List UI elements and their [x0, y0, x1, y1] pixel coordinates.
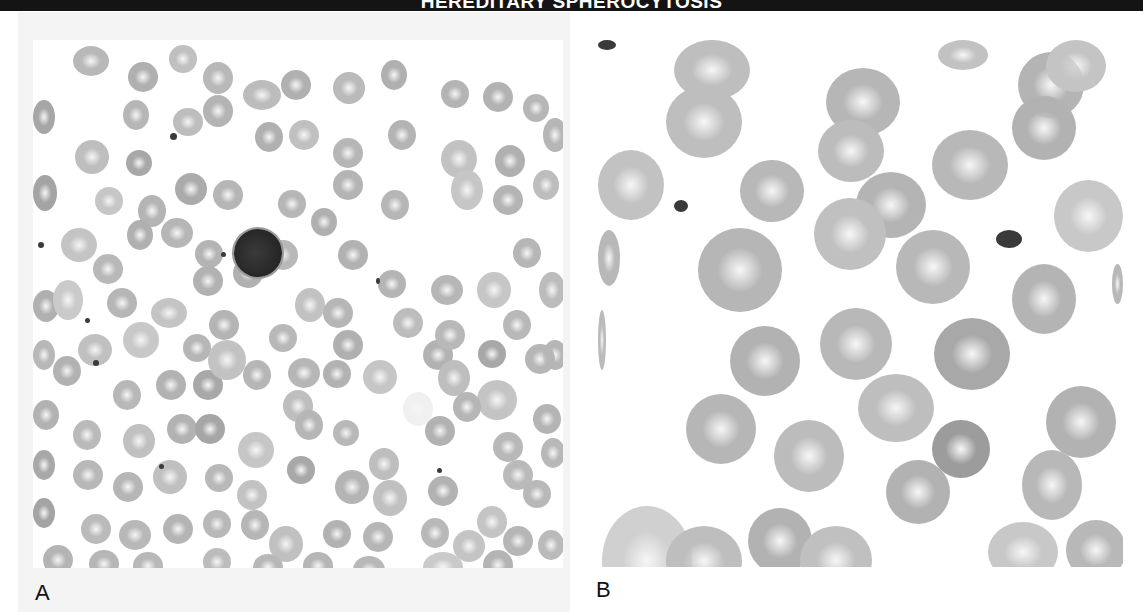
red-blood-cell [538, 530, 563, 560]
red-blood-cell [533, 170, 559, 200]
red-blood-cell [598, 310, 606, 370]
red-blood-cell [503, 310, 531, 340]
red-blood-cell [686, 394, 756, 464]
red-blood-cell [61, 228, 97, 262]
figure-title: HEREDITARY SPHEROCYTOSIS [0, 0, 1143, 11]
red-blood-cell [203, 510, 231, 538]
red-blood-cell [431, 275, 463, 305]
red-blood-cell [1012, 96, 1076, 160]
red-blood-cell [33, 498, 55, 528]
red-blood-cell [33, 100, 55, 134]
red-blood-cell [493, 185, 523, 215]
red-blood-cell [311, 208, 337, 236]
red-blood-cell [333, 72, 365, 104]
red-blood-cell [107, 288, 137, 318]
red-blood-cell [128, 62, 158, 92]
red-blood-cell [388, 120, 416, 150]
platelet [221, 252, 226, 257]
red-blood-cell [335, 470, 369, 504]
red-blood-cell [523, 94, 549, 122]
red-blood-cell [33, 400, 59, 430]
red-blood-cell [988, 522, 1058, 567]
red-blood-cell [363, 360, 397, 394]
red-blood-cell [483, 82, 513, 112]
red-blood-cell [503, 526, 533, 556]
red-blood-cell [353, 556, 385, 568]
red-blood-cell [195, 414, 225, 444]
red-blood-cell [281, 70, 311, 100]
red-blood-cell [543, 118, 563, 152]
red-blood-cell [938, 40, 988, 70]
platelet [376, 278, 380, 284]
platelet [38, 242, 44, 248]
panel-label-a: A [35, 580, 50, 606]
red-blood-cell [525, 344, 555, 374]
red-blood-cell [81, 514, 111, 544]
red-blood-cell [287, 456, 315, 484]
red-blood-cell [151, 298, 187, 328]
red-blood-cell [73, 46, 109, 76]
red-blood-cell [209, 310, 239, 340]
red-blood-cell [523, 480, 551, 508]
red-blood-cell [73, 460, 103, 490]
red-blood-cell [195, 240, 223, 268]
red-blood-cell [451, 170, 483, 210]
red-blood-cell [73, 420, 101, 450]
red-blood-cell [123, 100, 149, 130]
red-blood-cell [113, 380, 141, 410]
red-blood-cell [169, 45, 197, 73]
red-blood-cell [421, 518, 449, 548]
red-blood-cell [133, 552, 163, 568]
red-blood-cell [213, 180, 243, 210]
red-blood-cell [203, 95, 233, 127]
red-blood-cell [513, 238, 541, 268]
red-blood-cell [243, 360, 271, 390]
red-blood-cell [295, 410, 323, 440]
red-blood-cell [333, 330, 363, 360]
red-blood-cell [208, 340, 246, 380]
red-blood-cell [241, 510, 269, 540]
red-blood-cell [156, 370, 186, 400]
red-blood-cell [238, 432, 274, 468]
platelet [93, 360, 99, 366]
platelet [170, 133, 177, 140]
red-blood-cell [323, 298, 353, 328]
red-blood-cell [435, 320, 465, 350]
red-blood-cell [381, 190, 409, 220]
red-blood-cell [774, 420, 844, 492]
red-blood-cell [53, 280, 83, 320]
red-blood-cell [278, 190, 306, 218]
red-blood-cell [886, 460, 950, 524]
panel-label-b: B [596, 577, 611, 603]
red-blood-cell [43, 545, 73, 568]
red-blood-cell [333, 138, 363, 168]
red-blood-cell [127, 220, 153, 250]
red-blood-cell [666, 86, 742, 158]
red-blood-cell [477, 380, 517, 420]
red-blood-cell [323, 520, 351, 548]
red-blood-cell [393, 308, 423, 338]
red-blood-cell [438, 360, 470, 396]
red-blood-cell [119, 520, 151, 550]
red-blood-cell [730, 326, 800, 396]
red-blood-cell [95, 187, 123, 215]
red-blood-cell [161, 218, 193, 248]
red-blood-cell [740, 160, 804, 222]
micrograph-panel-a [33, 40, 563, 568]
red-blood-cell [428, 476, 458, 506]
red-blood-cell [203, 548, 231, 568]
red-blood-cell [814, 198, 886, 270]
platelet [996, 230, 1022, 248]
red-blood-cell [378, 270, 406, 298]
red-blood-cell [243, 80, 281, 110]
red-blood-cell [369, 448, 399, 480]
red-blood-cell [93, 254, 123, 284]
platelet [85, 318, 90, 323]
red-blood-cell [453, 392, 481, 422]
red-blood-cell [123, 322, 159, 358]
red-blood-cell [1066, 520, 1123, 567]
red-blood-cell [33, 175, 57, 211]
red-blood-cell [858, 374, 934, 442]
red-blood-cell [1054, 180, 1123, 252]
platelet [674, 200, 688, 212]
